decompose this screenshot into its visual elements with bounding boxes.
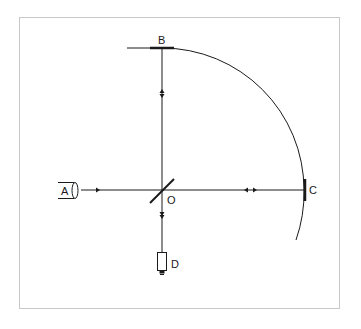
arrow-up-icon (160, 89, 165, 93)
arrow-right-icon (253, 188, 257, 193)
label-b: B (158, 34, 165, 46)
label-a: A (61, 185, 69, 197)
label-c: C (309, 184, 317, 196)
arrow-down-icon (160, 215, 165, 219)
arc-path (127, 48, 304, 240)
label-o: O (167, 194, 176, 206)
detector-d (158, 253, 167, 275)
label-d: D (171, 258, 179, 270)
apparatus-diagram: B C O A D (0, 0, 361, 329)
arrow-left-icon (244, 188, 248, 193)
arrow-down-icon (160, 94, 165, 98)
arrow-right-icon (96, 188, 100, 193)
figure-frame (20, 18, 340, 309)
